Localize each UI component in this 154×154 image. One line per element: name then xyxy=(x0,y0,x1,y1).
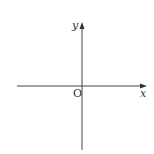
y-axis-label: y xyxy=(71,19,79,32)
coordinate-plane: y x O xyxy=(0,0,154,154)
y-axis-arrow-icon xyxy=(80,22,85,29)
x-axis-label: x xyxy=(140,87,147,100)
origin-label: O xyxy=(73,87,82,100)
